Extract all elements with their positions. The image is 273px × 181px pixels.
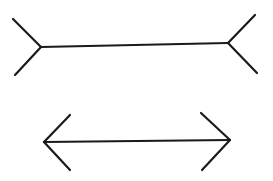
arrows-in-figure: [44, 113, 230, 170]
bottom-left-upper-arrowhead: [44, 115, 70, 142]
muller-lyer-illusion: [0, 0, 273, 181]
bottom-left-lower-arrowhead: [44, 142, 70, 170]
fins-out-figure: [13, 15, 257, 75]
top-left-lower-fin: [15, 47, 41, 75]
top-left-upper-fin: [13, 19, 41, 47]
bottom-shaft-line: [44, 140, 230, 142]
bottom-right-upper-arrowhead: [201, 113, 230, 140]
top-right-upper-fin: [228, 15, 255, 43]
top-shaft-line: [41, 43, 228, 47]
bottom-right-lower-arrowhead: [202, 140, 230, 170]
top-right-lower-fin: [228, 43, 257, 73]
